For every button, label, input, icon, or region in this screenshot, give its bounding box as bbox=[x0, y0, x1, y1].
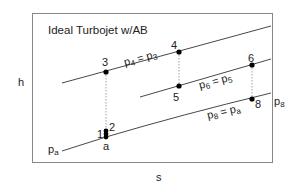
point-4 bbox=[176, 49, 181, 54]
point-6-label: 6 bbox=[248, 52, 254, 64]
point-1-label: 1 bbox=[97, 128, 103, 140]
point-5 bbox=[176, 83, 181, 88]
y-axis-label: h bbox=[18, 76, 24, 88]
point-8-label: 8 bbox=[255, 98, 261, 110]
point-a-label: a bbox=[103, 140, 110, 152]
p8-end-label: p8 bbox=[274, 95, 285, 109]
point-2-label: 2 bbox=[109, 121, 115, 133]
point-8 bbox=[249, 96, 254, 101]
point-a bbox=[104, 135, 109, 140]
x-axis-label: s bbox=[156, 171, 162, 183]
turbojet-hs-diagram: Ideal Turbojet w/AB h s 3 4 5 6 8 2 1 a … bbox=[0, 0, 304, 190]
point-4-label: 4 bbox=[171, 39, 177, 51]
point-3 bbox=[103, 69, 108, 74]
point-3-label: 3 bbox=[102, 56, 108, 68]
isobar-p8-pa-line bbox=[62, 93, 271, 151]
isobar-p4-p3-label: p4 = p3 bbox=[122, 47, 159, 69]
pa-end-label: pa bbox=[48, 143, 59, 157]
isobar-p8-pa-label: p8 = pa bbox=[206, 102, 243, 123]
point-5-label: 5 bbox=[173, 91, 179, 103]
isobar-p6-p5-label: p6 = p5 bbox=[197, 70, 234, 92]
diagram-title: Ideal Turbojet w/AB bbox=[48, 24, 148, 36]
